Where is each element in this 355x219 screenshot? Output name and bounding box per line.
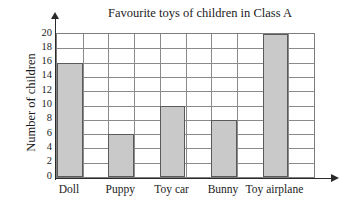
bar-bunny — [211, 120, 237, 177]
x-tick-label: Toy airplane — [214, 182, 334, 196]
bar-puppy — [108, 134, 134, 177]
y-axis-tick-labels: 02468101214161820 — [28, 33, 52, 178]
bar-toy-airplane — [263, 34, 289, 177]
gridline-vertical — [186, 34, 187, 177]
gridline-vertical — [288, 34, 289, 177]
plot-area — [56, 33, 315, 178]
gridline-vertical — [83, 34, 84, 177]
x-axis-arrow-icon — [331, 174, 339, 182]
y-tick-label: 6 — [30, 128, 52, 139]
y-tick-label: 2 — [30, 156, 52, 167]
x-axis-tick-labels: DollPuppyToy carBunnyToy airplane — [56, 182, 315, 202]
y-tick-label: 8 — [30, 113, 52, 124]
y-tick-label: 12 — [30, 85, 52, 96]
bar-chart: Favourite toys of children in Class A Nu… — [0, 0, 355, 219]
y-tick-label: 4 — [30, 142, 52, 153]
y-tick-label: 20 — [30, 28, 52, 39]
y-tick-label: 10 — [30, 99, 52, 110]
bar-toy-car — [160, 106, 186, 178]
y-tick-label: 18 — [30, 42, 52, 53]
chart-title: Favourite toys of children in Class A — [60, 6, 340, 20]
gridline-vertical — [134, 34, 135, 177]
gridline-vertical — [237, 34, 238, 177]
x-axis-line — [55, 178, 333, 179]
y-tick-label: 0 — [30, 171, 52, 182]
bar-doll — [57, 63, 83, 177]
y-tick-label: 16 — [30, 56, 52, 67]
y-tick-label: 14 — [30, 70, 52, 81]
